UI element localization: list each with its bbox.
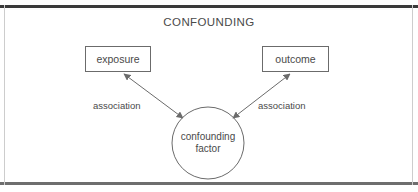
outcome-label: outcome xyxy=(262,53,329,65)
association-right-label: association xyxy=(258,100,306,111)
confounding-diagram: CONFOUNDING exposure outcome confounding… xyxy=(0,0,418,192)
association-right-arrow xyxy=(233,74,290,118)
diagram-canvas xyxy=(0,0,418,192)
association-left-arrow xyxy=(124,74,183,118)
confounding-factor-label: confounding factor xyxy=(170,131,246,155)
exposure-label: exposure xyxy=(85,53,151,65)
association-left-label: association xyxy=(93,100,141,111)
confounding-factor-label-line1: confounding xyxy=(170,131,246,143)
diagram-title: CONFOUNDING xyxy=(0,16,418,28)
confounding-factor-label-line2: factor xyxy=(170,143,246,155)
